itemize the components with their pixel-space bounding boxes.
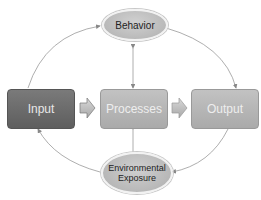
block-arrow-processes-output bbox=[172, 98, 187, 118]
arrow-behavior-to-output bbox=[166, 28, 236, 88]
arrow-environment-to-input bbox=[38, 129, 100, 172]
output-node: Output bbox=[191, 89, 259, 129]
output-label: Output bbox=[207, 102, 243, 116]
environmental-label-line1: Environmental bbox=[108, 163, 166, 173]
input-node: Input bbox=[7, 89, 75, 129]
environmental-exposure-node: Environmental Exposure bbox=[101, 152, 173, 194]
environmental-label-line2: Exposure bbox=[118, 173, 156, 183]
arrow-input-to-behavior bbox=[28, 26, 100, 88]
processes-label: Processes bbox=[106, 102, 162, 116]
behavior-label: Behavior bbox=[115, 20, 154, 31]
input-label: Input bbox=[28, 102, 55, 116]
arrow-output-to-environment bbox=[172, 129, 228, 172]
block-arrow-input-processes bbox=[80, 98, 95, 118]
behavior-node: Behavior bbox=[102, 9, 168, 41]
processes-node: Processes bbox=[100, 89, 168, 129]
